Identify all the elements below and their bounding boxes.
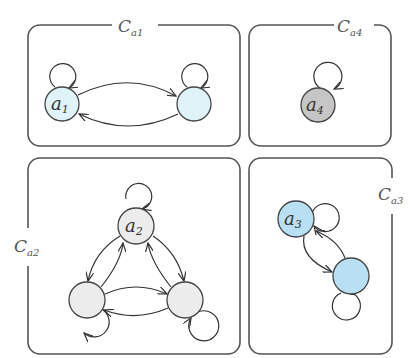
edge-right-to-a2 (148, 243, 171, 287)
node-a2-left (69, 282, 105, 318)
class-box-a3: Ca3 (249, 158, 403, 354)
edge-b-to-a1 (79, 114, 178, 126)
self-loop-a1-b (182, 64, 208, 88)
markov-class-diagram: Ca1 a1 Ca4 a4 Ca2 a2 Ca3 (0, 0, 412, 358)
self-loop-a3 (312, 204, 339, 232)
self-loop-a1 (50, 64, 76, 88)
edge-b-to-a3 (316, 231, 345, 258)
node-a2-right (167, 282, 203, 318)
node-a1-b (177, 87, 211, 121)
edge-right-to-left (104, 308, 168, 316)
edge-left-to-right (105, 287, 167, 294)
edge-a2-to-right (153, 236, 184, 281)
edge-a3-to-b (304, 236, 332, 272)
class-box-a2: Ca2 (14, 158, 240, 354)
edge-a2-to-left (88, 236, 120, 281)
self-loop-a2 (126, 183, 152, 209)
class-box-a4: Ca4 (249, 14, 391, 146)
node-a3-b (333, 258, 369, 294)
edge-a1-to-b (78, 83, 176, 96)
self-loop-a3-b (332, 292, 360, 320)
self-loop-a4 (314, 62, 342, 89)
